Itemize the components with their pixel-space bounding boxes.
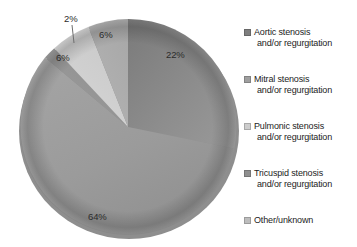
legend-item-pulmonic[interactable]: Pulmonic stenosis and/or regurgitation <box>244 121 357 143</box>
legend-swatch-pulmonic-icon <box>244 123 251 130</box>
legend-label-mitral: Mitral stenosis and/or regurgitation <box>254 74 332 96</box>
legend-label-tricuspid-line1: Tricuspid stenosis <box>254 168 323 178</box>
legend-label-pulmonic-line1: Pulmonic stenosis <box>254 121 324 131</box>
legend-label-tricuspid-line2: and/or regurgitation <box>254 179 332 190</box>
slice-label-mitral: 6% <box>99 30 113 40</box>
legend-label-other-unknown-line1: Other/unknown <box>254 215 313 225</box>
legend-label-tricuspid: Tricuspid stenosis and/or regurgitation <box>254 168 332 190</box>
legend-label-other-unknown: Other/unknown <box>254 215 313 226</box>
slice-label-tricuspid: 2% <box>64 14 78 24</box>
pie-chart-figure: 22% 64% 2% 6% 6% Aortic stenosis and/or … <box>0 0 357 247</box>
legend-label-aortic: Aortic stenosis and/or regurgitation <box>254 27 332 49</box>
legend-label-pulmonic-line2: and/or regurgitation <box>254 132 332 143</box>
legend-item-mitral[interactable]: Mitral stenosis and/or regurgitation <box>244 74 357 96</box>
pie-chart-plot-area: 22% 64% 2% 6% 6% <box>0 0 250 247</box>
slice-label-other-unknown: 64% <box>88 212 107 222</box>
slice-label-pulmonic: 6% <box>56 53 70 63</box>
pie-chart-svg <box>0 0 250 247</box>
legend-item-other-unknown[interactable]: Other/unknown <box>244 215 357 226</box>
legend-label-aortic-line1: Aortic stenosis <box>254 27 310 37</box>
legend-swatch-other-unknown-icon <box>244 217 251 224</box>
legend-swatch-mitral-icon <box>244 76 251 83</box>
legend-label-pulmonic: Pulmonic stenosis and/or regurgitation <box>254 121 332 143</box>
pie-edge-shading <box>20 19 236 235</box>
legend-item-aortic[interactable]: Aortic stenosis and/or regurgitation <box>244 27 357 49</box>
legend-label-mitral-line2: and/or regurgitation <box>254 85 332 96</box>
legend-swatch-tricuspid-icon <box>244 170 251 177</box>
legend-item-tricuspid[interactable]: Tricuspid stenosis and/or regurgitation <box>244 168 357 190</box>
legend-label-mitral-line1: Mitral stenosis <box>254 74 309 84</box>
legend-swatch-aortic-icon <box>244 29 251 36</box>
chart-legend: Aortic stenosis and/or regurgitation Mit… <box>244 24 357 234</box>
slice-label-aortic: 22% <box>166 50 185 60</box>
legend-label-aortic-line2: and/or regurgitation <box>254 38 332 49</box>
